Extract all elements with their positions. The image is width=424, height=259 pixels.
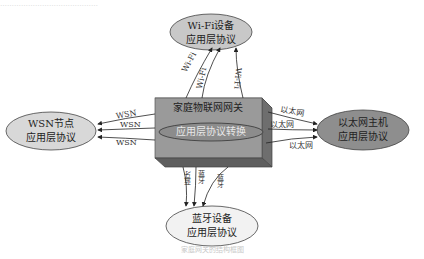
wsn-edge-label-2: WSN (120, 121, 141, 129)
bluetooth-edge-label-1: 蓝牙 (185, 171, 192, 185)
wifi-node-label: Wi-Fi设备 应用层协议 (171, 19, 251, 47)
ethernet-node-line1: 以太网主机 (323, 116, 403, 130)
wifi-node-line2: 应用层协议 (171, 33, 251, 47)
ethernet-node-label: 以太网主机 应用层协议 (323, 116, 403, 144)
wsn-edge-label-3: WSN (116, 139, 137, 147)
bluetooth-edge-label-2: 蓝牙 (197, 170, 204, 184)
bluetooth-node-label: 蓝牙设备 应用层协议 (172, 212, 252, 240)
gateway-protocol-diagram: …………………………………… (0, 0, 424, 259)
wsn-node-line2: 应用层协议 (11, 131, 91, 145)
wsn-node-line1: WSN节点 (11, 117, 91, 131)
ethernet-node-line2: 应用层协议 (323, 130, 403, 144)
gateway-inner-label: 应用层协议转换 (176, 127, 246, 137)
wsn-node-label: WSN节点 应用层协议 (11, 117, 91, 145)
wifi-edge-label-3: Wi-Fi (232, 67, 242, 89)
figure-caption: 家庭网关的结构框图 (0, 244, 424, 254)
gateway-title: 家庭物联网网关 (173, 103, 243, 113)
ethernet-edge-label-2: 以太网 (270, 121, 294, 129)
bluetooth-node-line2: 应用层协议 (172, 226, 252, 240)
ethernet-edge-label-3: 以太网 (289, 142, 313, 150)
wifi-node-line1: Wi-Fi设备 (171, 19, 251, 33)
bluetooth-node-line1: 蓝牙设备 (172, 212, 252, 226)
bluetooth-edge-label-3: 蓝牙 (216, 174, 223, 188)
